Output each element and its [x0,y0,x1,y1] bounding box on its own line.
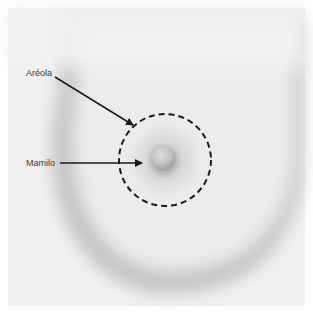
nipple-label: Mamilo [26,158,55,168]
breast-anatomy-diagram: Aréola Mamilo [0,0,313,314]
areola-label: Aréola [26,68,52,78]
nipple [151,146,176,171]
diagram-canvas [0,0,313,314]
